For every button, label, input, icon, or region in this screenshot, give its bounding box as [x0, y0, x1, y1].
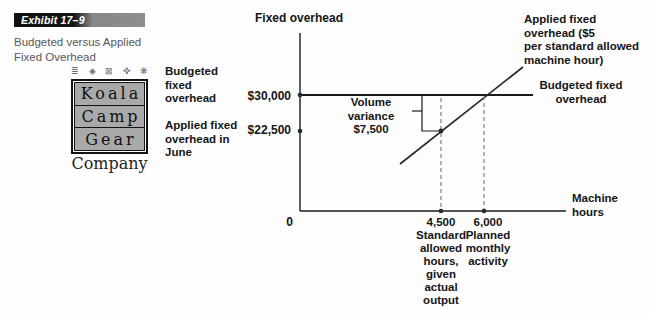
axis-dot-30000 [298, 93, 303, 98]
budgeted-line-label: Budgeted fixed overhead [535, 79, 627, 106]
applied-line-label: Applied fixed overhead ($5 per standard … [524, 13, 646, 67]
origin-tick-label: 0 [283, 216, 296, 230]
tick-6000-label: 6,000 Planned monthly activity [452, 216, 524, 268]
applied-overhead-line [400, 67, 523, 164]
y-axis-title: Fixed overhead [255, 12, 343, 26]
volume-variance-label: Volume variance $7,500 [327, 96, 415, 137]
axis-dot-22500 [298, 129, 303, 134]
volume-variance-bracket [422, 95, 441, 131]
applied-point-4500-22500 [439, 129, 444, 134]
axis-dot-6000 [482, 209, 487, 214]
axis-dot-4500 [439, 209, 444, 214]
exhibit-figure: Exhibit 17–9 Budgeted versus Applied Fix… [0, 0, 649, 313]
x-axis-title: Machine hours [572, 192, 618, 219]
